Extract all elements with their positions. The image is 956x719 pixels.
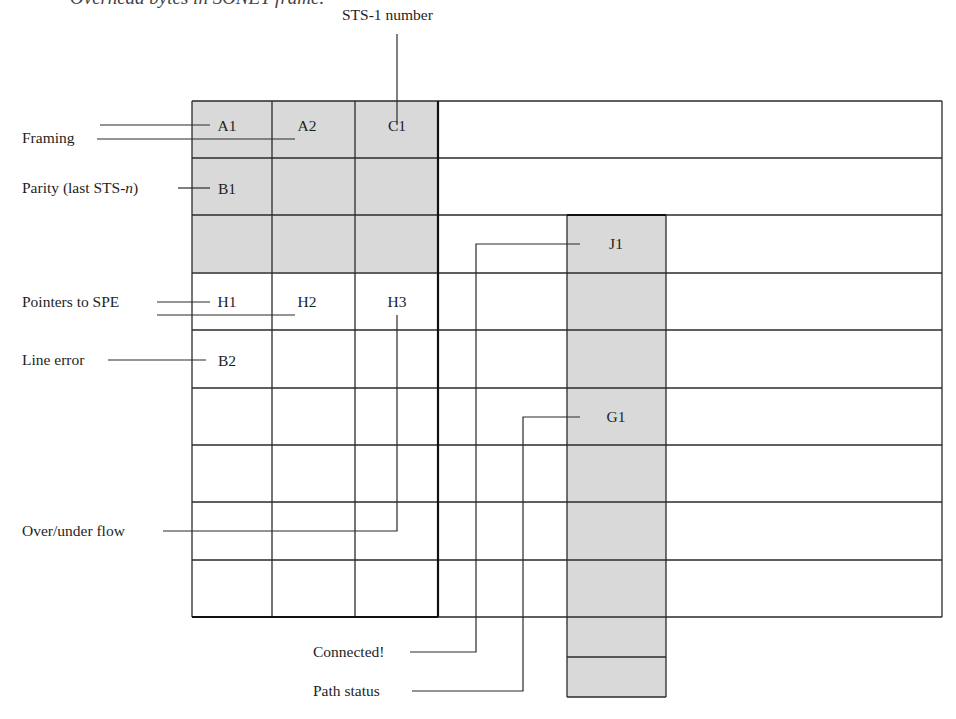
cell-a2: A2 <box>292 117 322 135</box>
cell-h2: H2 <box>292 293 322 311</box>
overflow-label: Over/under flow <box>22 522 125 540</box>
parity-close: ) <box>133 179 138 196</box>
cell-b1: B1 <box>212 180 242 198</box>
connected-label: Connected! <box>313 643 384 661</box>
framing-label: Framing <box>22 129 75 147</box>
parity-n: n <box>125 179 133 196</box>
path-status-label: Path status <box>313 682 380 700</box>
cell-b2: B2 <box>212 352 242 370</box>
parity-label: Parity (last STS-n) <box>22 179 138 197</box>
shaded-path-overhead <box>567 215 666 697</box>
cell-g1: G1 <box>601 408 631 426</box>
cell-a1: A1 <box>212 117 242 135</box>
cell-h1: H1 <box>212 293 242 311</box>
pointers-label: Pointers to SPE <box>22 293 119 311</box>
cell-h3: H3 <box>382 293 412 311</box>
cell-j1: J1 <box>601 235 631 253</box>
line-error-label: Line error <box>22 351 84 369</box>
cell-c1: C1 <box>382 117 412 135</box>
sonet-frame-diagram <box>0 0 956 719</box>
parity-text: Parity (last STS- <box>22 179 125 196</box>
sts1-number-label: STS-1 number <box>342 6 433 24</box>
